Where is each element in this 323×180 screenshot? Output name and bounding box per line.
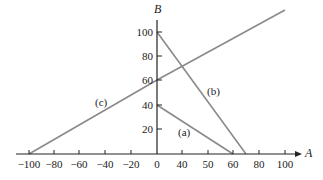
x-axis-arrow-icon [295, 151, 302, 157]
x-axis-title: A [304, 146, 313, 160]
x-tick-label: 50 [203, 158, 215, 170]
series-label-c: (c) [95, 96, 108, 109]
x-tick-label: 80 [254, 158, 266, 170]
x-tick-label: −60 [70, 158, 88, 170]
x-tick-label: 0 [154, 158, 160, 170]
y-axis-title: B [154, 2, 162, 16]
y-ticks: 20406080100 [137, 26, 163, 135]
line-a [157, 105, 233, 154]
x-ticks: −100−80−60−40−20040506080100 [18, 150, 294, 170]
x-tick-label: 60 [228, 158, 240, 170]
y-tick-label: 40 [142, 99, 154, 111]
x-tick-label: 100 [277, 158, 294, 170]
x-tick-label: −40 [96, 158, 114, 170]
line-chart: −100−80−60−40−20040506080100 20406080100… [0, 0, 323, 180]
series-label-a: (a) [178, 126, 191, 139]
y-tick-label: 80 [142, 50, 154, 62]
series-label-b: (b) [207, 85, 220, 98]
line-b [157, 32, 246, 154]
x-tick-label: −20 [122, 158, 140, 170]
y-tick-label: 20 [142, 123, 154, 135]
x-tick-label: −100 [18, 158, 41, 170]
x-tick-label: −80 [45, 158, 63, 170]
y-tick-label: 100 [137, 26, 154, 38]
x-tick-label: 40 [177, 158, 189, 170]
axes [16, 20, 298, 154]
y-tick-label: 60 [142, 74, 154, 86]
